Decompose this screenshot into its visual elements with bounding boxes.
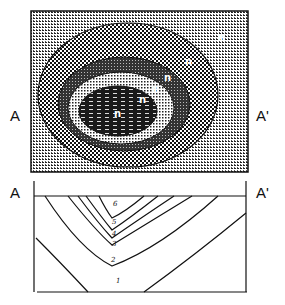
plan-view: n n n n n n A A' — [10, 11, 269, 172]
contour-label-1: 1 — [116, 277, 120, 285]
contour-label-2: 2 — [110, 256, 116, 264]
contour-labels: 6 5 4 3 2 1 — [110, 200, 120, 285]
zone-label: n — [152, 83, 159, 94]
contour-line — [78, 196, 174, 238]
contour-label-3: 3 — [112, 240, 117, 248]
section-start-label: A — [10, 107, 20, 124]
contour-line — [144, 213, 246, 292]
contour-line — [99, 196, 144, 218]
geologic-diagram: n n n n n n A A' 6 5 4 3 2 1 A A' — [0, 0, 285, 305]
zone-label: n — [185, 56, 192, 67]
zone-label: n — [139, 94, 146, 105]
section-end-label: A' — [256, 107, 269, 124]
zone-label: n — [114, 108, 121, 119]
section-start-label: A — [10, 184, 20, 201]
zone-label: n — [218, 32, 225, 43]
contour-label-4: 4 — [111, 230, 116, 238]
cross-section — [34, 181, 247, 292]
section-end-label: A' — [256, 184, 269, 201]
zone-label: n — [164, 72, 171, 83]
contour-label-6: 6 — [113, 200, 118, 208]
contour-line — [68, 196, 192, 245]
contour-line — [36, 238, 88, 292]
contour-label-5: 5 — [112, 218, 117, 226]
